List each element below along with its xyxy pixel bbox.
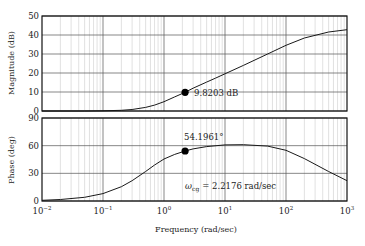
- phase-marker-dot: [181, 147, 188, 154]
- crossover-value: = 2.2176 rad/sec: [202, 181, 276, 191]
- frequency-x-ticks: 10−210−1100101102103: [33, 205, 355, 216]
- magnitude-annotation: 9.8203 dB: [194, 88, 238, 98]
- y-tick-label: 60: [28, 141, 39, 151]
- x-tick-label: 10−1: [94, 205, 113, 216]
- y-tick-label: 90: [28, 113, 39, 123]
- x-tick-label: 100: [157, 205, 172, 216]
- magnitude-curve: [42, 30, 347, 111]
- y-tick-label: 50: [28, 11, 39, 21]
- crossover-frequency-annotation: ωcg= 2.2176 rad/sec: [185, 181, 276, 193]
- magnitude-marker-dot: [181, 89, 188, 96]
- x-tick-label: 10−2: [33, 205, 52, 216]
- x-tick-label: 101: [218, 205, 232, 216]
- phase-y-axis-label: Phase (deg): [7, 136, 16, 184]
- x-tick-label: 103: [340, 205, 355, 216]
- y-tick-label: 0: [34, 196, 39, 206]
- x-tick-label: 102: [279, 205, 293, 216]
- magnitude-y-axis-label: Magnitude (dB): [7, 31, 16, 95]
- magnitude-y-ticks: 01020304050: [28, 11, 39, 116]
- omega-subscript: cg: [192, 185, 199, 193]
- y-tick-label: 20: [28, 68, 39, 78]
- phase-annotation: 54.1961°: [184, 132, 223, 142]
- y-tick-label: 30: [28, 49, 39, 59]
- bode-plot: 9.8203 dB 54.1961° ωcg= 2.2176 rad/sec 0…: [0, 0, 365, 246]
- y-tick-label: 30: [28, 168, 39, 178]
- phase-y-ticks: 0306090: [28, 113, 39, 206]
- x-axis-label: Frequency (rad/sec): [155, 225, 237, 234]
- y-tick-label: 40: [28, 30, 39, 40]
- y-tick-label: 10: [28, 87, 39, 97]
